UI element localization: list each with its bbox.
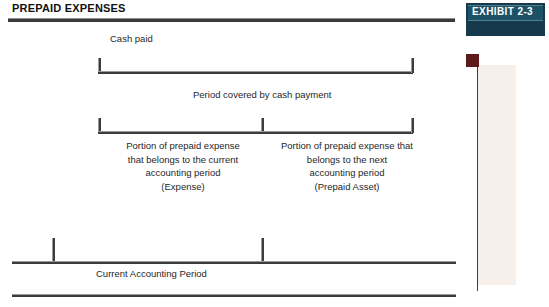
timeline-end-tick bbox=[261, 238, 264, 263]
title-divider bbox=[8, 18, 455, 22]
timeline-upper-line bbox=[12, 261, 456, 264]
cash-paid-label: Cash paid bbox=[110, 32, 153, 45]
side-accent-rule bbox=[477, 54, 478, 291]
exhibit-badge-label: EXHIBIT 2-3 bbox=[472, 6, 542, 17]
side-accent-band bbox=[478, 65, 516, 285]
expense-portion-label: Portion of prepaid expensethat belongs t… bbox=[104, 139, 262, 193]
side-marker-square-icon bbox=[466, 54, 479, 67]
current-accounting-period-label: Current Accounting Period bbox=[96, 267, 207, 280]
cash-payment-bracket-line bbox=[98, 71, 413, 74]
cash-payment-bracket-end-tick bbox=[411, 58, 414, 73]
timeline-start-tick bbox=[52, 238, 55, 263]
prepaid-asset-portion-label: Portion of prepaid expense thatbelongs t… bbox=[266, 139, 428, 193]
split-bracket-line bbox=[98, 131, 413, 134]
page-title: PREPAID EXPENSES bbox=[12, 2, 126, 14]
period-covered-label: Period covered by cash payment bbox=[193, 88, 331, 101]
timeline-lower-line bbox=[12, 294, 456, 297]
split-bracket-end-tick bbox=[411, 118, 414, 133]
